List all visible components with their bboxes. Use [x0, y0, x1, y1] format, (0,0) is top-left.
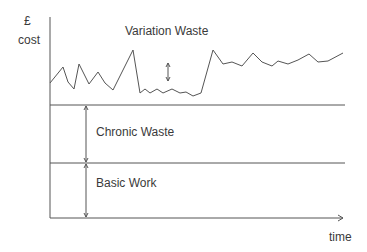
- variation-waste-label: Variation Waste: [125, 24, 208, 38]
- chronic-waste-label: Chronic Waste: [96, 125, 174, 139]
- y-axis-label: cost: [18, 33, 40, 47]
- currency-symbol: £: [24, 14, 31, 28]
- basic-work-label: Basic Work: [96, 176, 156, 190]
- x-axis-label: time: [329, 230, 352, 244]
- variation-waste-curve: [50, 50, 343, 96]
